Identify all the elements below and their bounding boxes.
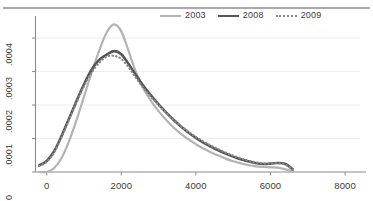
y-tick-label-2: .0002 — [4, 110, 14, 133]
series-lines — [39, 24, 293, 172]
legend-label-2009: 2009 — [301, 11, 322, 20]
series-line-2008 — [39, 51, 293, 169]
y-tick-label-3: .0003 — [4, 77, 14, 100]
legend-swatch-2008 — [218, 15, 239, 17]
legend-label-2008: 2008 — [243, 11, 264, 20]
x-tick-label-1: 2000 — [96, 180, 146, 191]
y-tick-label-1: .0001 — [4, 143, 14, 166]
legend-item-2003[interactable]: 2003 — [160, 11, 206, 20]
density-chart: 0.0001.0002.0003.0004 02000400060008000 … — [0, 0, 373, 201]
gridlines — [36, 38, 361, 138]
legend-swatch-2009 — [276, 15, 297, 17]
chart-legend: 2003 2008 2009 — [160, 11, 321, 20]
x-tick-label-4: 8000 — [320, 180, 370, 191]
x-tick-label-0: 0 — [22, 180, 72, 191]
tick-marks — [32, 38, 345, 175]
plot-area — [0, 0, 373, 201]
legend-label-2003: 2003 — [185, 11, 206, 20]
x-tick-label-2: 4000 — [171, 180, 221, 191]
x-tick-label-3: 6000 — [245, 180, 295, 191]
legend-swatch-2003 — [160, 15, 181, 17]
y-tick-label-4: .0004 — [4, 43, 14, 66]
legend-item-2009[interactable]: 2009 — [276, 11, 322, 20]
y-tick-label-0: 0 — [4, 195, 14, 200]
legend-item-2008[interactable]: 2008 — [218, 11, 264, 20]
